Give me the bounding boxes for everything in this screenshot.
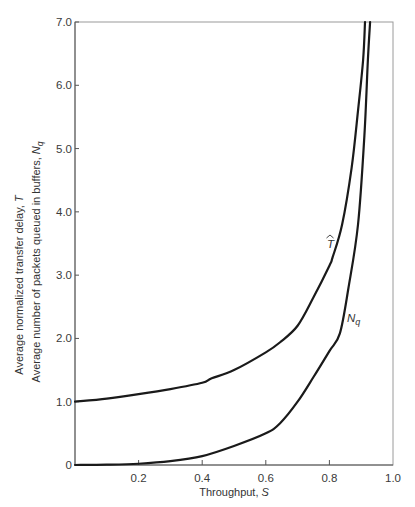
y-tick-label: 3.0 [56,269,72,281]
plot-frame [75,22,393,465]
svg-text:Average normalized transfer de: Average normalized transfer delay,T [13,194,25,375]
hat-icon-y [7,207,10,213]
y-tick-label: 6.0 [56,79,72,91]
y-tick-label: 4.0 [56,206,72,218]
svg-text:Average number of packets queu: Average number of packets queued in buff… [30,141,45,382]
x-tick-label: 0.8 [321,472,337,484]
curve-t-hat [75,22,365,402]
y-tick-label: 0 [66,459,72,471]
y-tick-label: 2.0 [56,332,72,344]
x-tick-label: 0.6 [258,472,274,484]
x-tick-label: 1.0 [385,472,401,484]
curves [75,22,370,465]
x-ticks: 0.20.40.60.81.0 [131,460,401,484]
curve-nq [75,22,370,465]
x-tick-label: 0.2 [131,472,147,484]
curve-label-t: T [327,235,336,250]
curve-label-nq: Nq [347,312,360,327]
y-tick-label: 5.0 [56,143,72,155]
y-axis-title-1: Average normalized transfer delay,T [13,194,25,375]
curve-label-t-text: T [327,238,335,250]
y-tick-label: 1.0 [56,396,72,408]
y-axis-title-2: Average number of packets queued in buff… [30,141,45,382]
x-tick-label: 0.4 [194,472,211,484]
chart-svg: 01.02.03.04.05.06.07.0 0.20.40.60.81.0 T… [0,0,415,507]
curve-label-nq-text: Nq [347,312,360,327]
y-tick-label: 7.0 [56,16,72,28]
x-axis-title: Throughput,S [199,486,269,498]
